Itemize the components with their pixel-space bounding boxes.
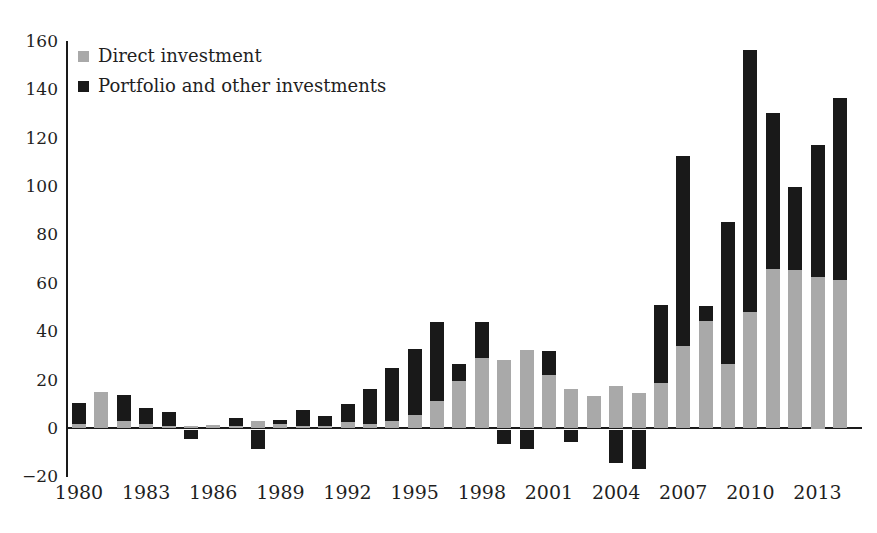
bar-segment-portfolio-2005 <box>632 430 646 470</box>
x-tick-label: 2013 <box>783 483 853 502</box>
bar-segment-portfolio-2008 <box>699 306 713 321</box>
bar-segment-direct-1986 <box>206 425 220 429</box>
x-tick-label: 2007 <box>648 483 718 502</box>
x-tick-label: 1983 <box>111 483 181 502</box>
bar-segment-direct-1997 <box>452 381 466 428</box>
bar-segment-direct-1992 <box>341 422 355 428</box>
x-tick-label: 1995 <box>380 483 450 502</box>
legend-swatch-gray <box>78 51 89 62</box>
legend-item-portfolio-investments: Portfolio and other investments <box>78 76 386 96</box>
bar-segment-direct-2011 <box>766 269 780 429</box>
bar-segment-direct-1987 <box>229 426 243 428</box>
y-tick-label: 100 <box>0 178 58 195</box>
y-tick-label: 40 <box>0 323 58 340</box>
bar-segment-direct-1993 <box>363 424 377 429</box>
bar-segment-direct-1996 <box>430 401 444 429</box>
bar-segment-portfolio-1982 <box>117 395 131 422</box>
x-tick-label: 2001 <box>514 483 584 502</box>
bar-segment-direct-1994 <box>385 421 399 428</box>
bar-segment-portfolio-1993 <box>363 389 377 424</box>
y-axis-line <box>66 41 68 477</box>
bar-segment-portfolio-1988 <box>251 430 265 449</box>
bar-segment-direct-1981 <box>94 392 108 428</box>
bar-segment-portfolio-1999 <box>497 430 511 445</box>
bar-segment-portfolio-2010 <box>743 50 757 313</box>
bar-segment-direct-2004 <box>609 386 623 428</box>
bar-segment-portfolio-1989 <box>273 420 287 424</box>
bar-segment-direct-2010 <box>743 312 757 428</box>
y-tick-label: 0 <box>0 420 58 437</box>
bar-segment-portfolio-1987 <box>229 418 243 426</box>
bar-segment-direct-2008 <box>699 321 713 429</box>
bar-segment-direct-1983 <box>139 424 153 429</box>
bar-segment-direct-2006 <box>654 383 668 429</box>
bar-segment-direct-1990 <box>296 426 310 428</box>
bar-segment-direct-1991 <box>318 426 332 428</box>
bar-segment-portfolio-2013 <box>811 145 825 277</box>
bar-segment-direct-1984 <box>162 426 176 428</box>
legend: Direct investment Portfolio and other in… <box>78 46 386 106</box>
bar-segment-portfolio-1994 <box>385 368 399 421</box>
bar-segment-portfolio-1984 <box>162 412 176 427</box>
bar-segment-portfolio-2012 <box>788 187 802 270</box>
bar-segment-direct-1980 <box>72 424 86 429</box>
plot-area: 160140120100806040200−20 198019831986198… <box>0 0 877 533</box>
bar-segment-direct-1989 <box>273 424 287 429</box>
bar-segment-portfolio-1992 <box>341 404 355 422</box>
bar-segment-portfolio-1983 <box>139 408 153 424</box>
x-tick-label: 1998 <box>447 483 517 502</box>
bar-segment-direct-2012 <box>788 270 802 429</box>
bar-segment-direct-1995 <box>408 415 422 428</box>
bar-segment-portfolio-2007 <box>676 156 690 346</box>
bar-segment-portfolio-2002 <box>564 430 578 442</box>
bar-segment-direct-2002 <box>564 389 578 429</box>
chart-figure: 160140120100806040200−20 198019831986198… <box>0 0 877 533</box>
bar-segment-portfolio-1998 <box>475 322 489 358</box>
bar-segment-portfolio-1991 <box>318 416 332 426</box>
x-tick-label: 1986 <box>178 483 248 502</box>
x-tick-label: 2004 <box>581 483 651 502</box>
bar-segment-direct-2007 <box>676 346 690 428</box>
bar-segment-direct-2003 <box>587 396 601 429</box>
bar-segment-portfolio-1996 <box>430 322 444 401</box>
bar-segment-portfolio-1997 <box>452 364 466 381</box>
bar-segment-direct-2001 <box>542 375 556 428</box>
legend-label: Direct investment <box>98 46 262 66</box>
x-tick-label: 1989 <box>245 483 315 502</box>
bar-segment-direct-2005 <box>632 393 646 428</box>
bar-segment-portfolio-1985 <box>184 430 198 440</box>
x-tick-label: 1980 <box>44 483 114 502</box>
bar-segment-portfolio-2006 <box>654 305 668 382</box>
y-tick-label: 140 <box>0 81 58 98</box>
bar-segment-portfolio-2004 <box>609 430 623 464</box>
bar-segment-direct-1999 <box>497 360 511 429</box>
y-tick-label: 80 <box>0 226 58 243</box>
bar-segment-direct-2009 <box>721 364 735 428</box>
legend-item-direct-investment: Direct investment <box>78 46 386 66</box>
bar-segment-direct-1988 <box>251 421 265 428</box>
legend-label: Portfolio and other investments <box>98 76 386 96</box>
bar-segment-portfolio-2001 <box>542 351 556 375</box>
y-tick-label: 120 <box>0 130 58 147</box>
bar-segment-direct-2013 <box>811 277 825 428</box>
bar-segment-direct-2000 <box>520 350 534 429</box>
bar-segment-direct-2014 <box>833 280 847 429</box>
bar-segment-direct-1985 <box>184 426 198 428</box>
legend-swatch-black <box>78 81 89 92</box>
bar-segment-portfolio-1980 <box>72 403 86 424</box>
bar-segment-portfolio-1995 <box>408 349 422 416</box>
bar-segment-portfolio-2014 <box>833 98 847 280</box>
x-tick-label: 1992 <box>313 483 383 502</box>
bar-segment-portfolio-2000 <box>520 430 534 449</box>
y-tick-label: 160 <box>0 33 58 50</box>
x-tick-label: 2010 <box>715 483 785 502</box>
y-tick-label: 60 <box>0 275 58 292</box>
bar-segment-portfolio-1990 <box>296 410 310 426</box>
bar-segment-portfolio-2009 <box>721 222 735 365</box>
bar-segment-portfolio-2011 <box>766 113 780 269</box>
y-tick-label: 20 <box>0 372 58 389</box>
bar-segment-direct-1982 <box>117 421 131 428</box>
bar-segment-direct-1998 <box>475 358 489 428</box>
